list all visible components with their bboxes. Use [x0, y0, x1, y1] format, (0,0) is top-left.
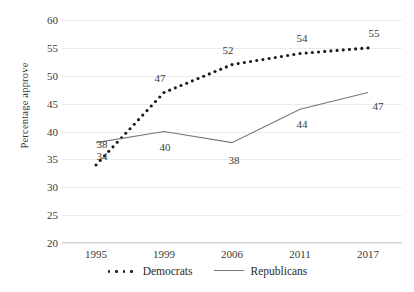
legend-item-republicans[interactable]: Republicans	[214, 265, 307, 277]
data-label-democrats-1995: 34	[97, 150, 108, 162]
data-label-democrats-2017: 55	[369, 27, 380, 39]
series-line-republicans	[96, 92, 368, 142]
y-axis-tick-label: 45	[32, 98, 58, 110]
y-axis-tick-label: 30	[32, 181, 58, 193]
data-label-democrats-2006: 52	[223, 44, 234, 56]
legend-item-democrats[interactable]: Democrats	[107, 265, 193, 277]
x-axis-tick-label: 1999	[134, 248, 194, 260]
series-dots-democrats	[94, 46, 369, 166]
gridline	[62, 243, 402, 244]
dotted-line-marker-icon	[107, 266, 137, 276]
y-axis-tick-label: 55	[32, 42, 58, 54]
data-label-republicans-2017: 47	[373, 100, 384, 112]
data-label-democrats-2011: 54	[297, 32, 308, 44]
legend-label-democrats: Democrats	[143, 265, 193, 277]
y-axis-tick-label: 60	[32, 14, 58, 26]
x-axis-tick-label: 2017	[338, 248, 398, 260]
y-axis-tick-label: 25	[32, 209, 58, 221]
data-label-republicans-1995: 38	[97, 138, 108, 150]
line-chart: Percentage approve 202530354045505560 34…	[0, 0, 414, 292]
data-label-democrats-1999: 47	[155, 72, 166, 84]
y-axis-tick-label: 35	[32, 153, 58, 165]
chart-legend: Democrats Republicans	[0, 265, 414, 277]
data-label-republicans-2006: 38	[229, 154, 240, 166]
y-axis-tick-label: 40	[32, 126, 58, 138]
data-label-republicans-2011: 44	[297, 118, 308, 130]
data-label-republicans-1999: 40	[160, 141, 171, 153]
x-axis-tick-label: 2006	[202, 248, 262, 260]
solid-line-marker-icon	[214, 266, 244, 276]
y-axis-tick-label: 50	[32, 70, 58, 82]
y-axis-tick-labels: 202530354045505560	[28, 20, 58, 243]
plot-area: 34475254553840384447	[62, 20, 402, 243]
y-axis-tick-label: 20	[32, 237, 58, 249]
x-axis-tick-label: 2011	[270, 248, 330, 260]
x-axis-tick-label: 1995	[66, 248, 126, 260]
legend-label-republicans: Republicans	[250, 265, 307, 277]
